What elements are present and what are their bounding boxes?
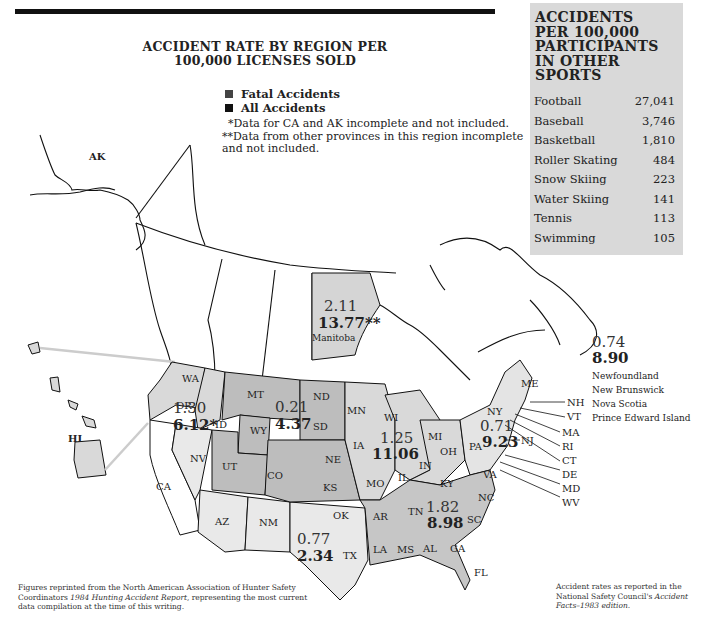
north-america-map: AK HI WA OR ID MT WY ND SD NE KS UT CO N… — [0, 0, 713, 633]
plains-all-value: 4.37 — [275, 415, 312, 433]
footer-line: Accident rates as reported in the — [556, 582, 706, 592]
southeast-all-value: 8.98 — [427, 514, 464, 532]
hi-leader-line-2 — [105, 423, 148, 470]
pnw-fatal-value: 1.30 — [173, 399, 206, 417]
label-vt: VT — [566, 411, 581, 422]
label-mt: MT — [247, 389, 264, 400]
label-co: CO — [267, 470, 283, 481]
label-mo: MO — [366, 478, 384, 489]
label-ut: UT — [222, 461, 237, 472]
footer-text: . — [628, 601, 630, 610]
label-ct: CT — [562, 455, 577, 466]
label-oh: OH — [440, 446, 457, 457]
footer-line: Figures reprinted from the North America… — [18, 583, 348, 593]
footer-line: Coordinators 1984 Hunting Accident Repor… — [18, 593, 348, 603]
label-wi: WI — [384, 412, 398, 423]
footer-line: data compilation at the time of this wri… — [18, 602, 348, 612]
label-va: VA — [482, 469, 498, 480]
atlantic-canada-values: 0.74 8.90 Newfoundland New Brunswick Nov… — [592, 334, 691, 425]
label-ks: KS — [323, 482, 337, 493]
label-ar: AR — [372, 511, 388, 522]
atlantic-fatal-value: 0.74 — [592, 334, 691, 350]
label-wa: WA — [182, 373, 200, 384]
quebec-south — [478, 330, 545, 352]
label-la: LA — [373, 544, 388, 555]
footer-line: National Safety Council's Accident — [556, 592, 706, 602]
label-hi: HI — [68, 433, 82, 444]
southwest-all-value: 2.34 — [297, 547, 334, 565]
label-wy: WY — [250, 425, 267, 436]
label-manitoba: Manitoba — [312, 333, 356, 343]
label-ma: MA — [562, 427, 580, 438]
label-al: AL — [422, 543, 437, 554]
manitoba-fatal-value: 2.11 — [324, 297, 357, 315]
label-nj: NJ — [521, 435, 534, 446]
label-fl: FL — [474, 567, 488, 578]
labrador-border — [530, 300, 560, 345]
parallel-60 — [136, 223, 396, 273]
label-ne: NE — [325, 454, 341, 465]
label-ms: MS — [397, 544, 414, 555]
label-mn: MN — [347, 405, 366, 416]
publication-title: Facts–1983 edition — [556, 601, 628, 610]
label-il: IL — [398, 472, 409, 483]
label-az: AZ — [214, 516, 229, 527]
province-label: Newfoundland — [592, 369, 691, 383]
atlantic-all-value: 8.90 — [592, 350, 691, 366]
atlantic-province-list: Newfoundland New Brunswick Nova Scotia P… — [592, 369, 691, 425]
quebec-outline — [440, 238, 597, 355]
label-nc: NC — [478, 492, 495, 503]
ak-border — [136, 145, 190, 218]
plains-fatal-value: 0.21 — [275, 398, 308, 416]
yukon-border — [190, 145, 205, 245]
label-in: IN — [419, 460, 432, 471]
bc-alberta-border — [208, 259, 222, 380]
northeast-all-value: 9.23 — [482, 433, 519, 451]
province-label: Nova Scotia — [592, 397, 691, 411]
label-de: DE — [562, 469, 577, 480]
label-tx: TX — [343, 550, 358, 561]
label-ak: AK — [88, 151, 106, 162]
label-ia: IA — [353, 440, 365, 451]
footer-text: Coordinators — [18, 593, 70, 602]
pnw-all-value: 6.12* — [173, 416, 218, 434]
footer-text: National Safety Council's — [556, 592, 655, 601]
label-tn: TN — [408, 506, 424, 517]
label-ky: KY — [440, 478, 454, 489]
label-nh: NH — [567, 397, 585, 408]
label-sd: SD — [313, 421, 328, 432]
label-ok: OK — [333, 510, 349, 521]
bc-coast — [136, 223, 172, 370]
label-wv: WV — [562, 497, 580, 508]
label-sc: SC — [467, 514, 482, 525]
label-ca: CA — [156, 481, 172, 492]
label-ny: NY — [487, 406, 503, 417]
label-md: MD — [562, 483, 580, 494]
province-label: New Brunswick — [592, 383, 691, 397]
publication-title: Accident — [655, 592, 688, 601]
alberta-sask-border — [262, 270, 275, 380]
source-note-right: Accident rates as reported in the Nation… — [556, 582, 706, 611]
hi-leader-line — [40, 348, 175, 362]
source-note-left: Figures reprinted from the North America… — [18, 583, 348, 612]
label-nm: NM — [259, 517, 278, 528]
label-nv: NV — [190, 453, 207, 464]
label-ga: GA — [450, 543, 466, 554]
southwest-fatal-value: 0.77 — [297, 530, 330, 548]
province-label: Prince Edward Island — [592, 411, 691, 425]
hawaii-islands — [28, 342, 106, 478]
report-title: 1984 Hunting Accident Report — [70, 593, 187, 602]
label-ri: RI — [562, 441, 574, 452]
ontario-outline — [380, 305, 470, 380]
midwest-all-value: 11.06 — [372, 445, 419, 463]
alaska-peninsula — [30, 188, 115, 195]
label-me: ME — [521, 378, 539, 389]
manitoba-all-value: 13.77** — [318, 314, 381, 332]
footer-text: , representing the most current — [187, 593, 307, 602]
label-mi: MI — [428, 431, 442, 442]
footer-line: Facts–1983 edition. — [556, 601, 706, 611]
label-nd: ND — [313, 391, 330, 402]
label-pa: PA — [469, 441, 483, 452]
hudson-coast — [430, 265, 445, 290]
